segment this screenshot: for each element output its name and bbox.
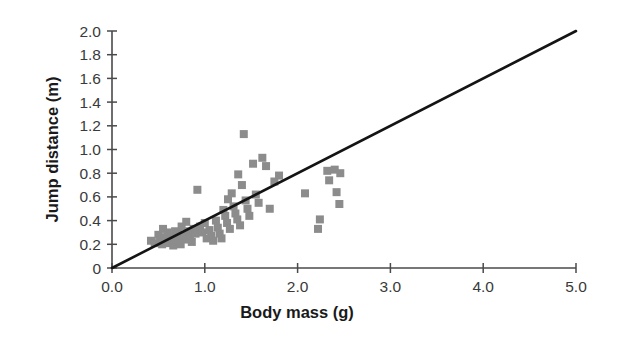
data-point-marker (182, 218, 190, 226)
data-point-marker (323, 167, 331, 175)
data-point-marker (209, 237, 217, 245)
y-tick-label: 1.8 (79, 46, 101, 63)
data-point-marker (243, 205, 251, 213)
data-point-marker (193, 186, 201, 194)
y-axis: 00.20.40.60.81.01.21.41.61.82.0 (79, 23, 117, 277)
x-tick-label: 0.0 (101, 278, 123, 295)
data-point-marker (336, 169, 344, 177)
y-tick-label: 0 (92, 260, 101, 277)
data-point-marker (221, 212, 229, 220)
x-tick-label: 2.0 (287, 278, 309, 295)
data-point-marker (228, 189, 236, 197)
y-tick-label: 1.2 (79, 117, 101, 134)
y-tick-label: 0.2 (79, 236, 101, 253)
x-tick-label: 4.0 (472, 278, 494, 295)
data-point-marker (240, 130, 248, 138)
x-axis-title: Body mass (g) (240, 303, 354, 321)
data-points (147, 130, 344, 249)
x-tick-label: 3.0 (380, 278, 402, 295)
y-tick-label: 1.6 (79, 70, 101, 87)
data-point-marker (258, 154, 266, 162)
data-point-marker (188, 238, 196, 246)
data-point-marker (325, 176, 333, 184)
y-tick-label: 1.0 (79, 141, 101, 158)
data-point-marker (234, 170, 242, 178)
data-point-marker (255, 199, 263, 207)
data-point-marker (335, 200, 343, 208)
data-point-marker (301, 189, 309, 197)
data-point-marker (275, 172, 283, 180)
data-point-marker (236, 221, 244, 229)
data-point-marker (245, 212, 253, 220)
y-tick-label: 0.8 (79, 165, 101, 182)
plot-canvas: 00.20.40.60.81.01.21.41.61.82.0 0.01.02.… (0, 0, 621, 342)
x-tick-label: 1.0 (194, 278, 216, 295)
data-point-marker (266, 205, 274, 213)
data-point-marker (238, 181, 246, 189)
x-tick-label: 5.0 (565, 278, 587, 295)
data-point-marker (262, 162, 270, 170)
y-tick-label: 2.0 (79, 23, 101, 40)
y-tick-label: 0.6 (79, 188, 101, 205)
scatter-plot-figure: 00.20.40.60.81.01.21.41.61.82.0 0.01.02.… (0, 0, 621, 342)
data-point-marker (249, 160, 257, 168)
y-axis-title: Jump distance (m) (43, 77, 61, 223)
regression-line (112, 31, 576, 268)
data-point-marker (212, 217, 220, 225)
data-point-marker (314, 225, 322, 233)
y-tick-label: 1.4 (79, 94, 101, 111)
x-axis: 0.01.02.03.04.05.0 (101, 263, 587, 295)
regression-line-path (112, 31, 576, 268)
y-tick-label: 0.4 (79, 212, 101, 229)
data-point-marker (218, 234, 226, 242)
data-point-marker (226, 225, 234, 233)
data-point-marker (333, 188, 341, 196)
data-point-marker (316, 215, 324, 223)
